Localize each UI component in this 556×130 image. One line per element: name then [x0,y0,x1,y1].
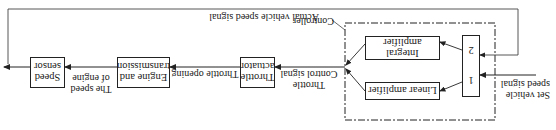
throttle-opening-label: Throttle opening [170,69,240,80]
set-speed-label-line1: Set vehicle [501,90,550,101]
selector-2-label: 2 [468,46,473,57]
engine-speed-line1: The speed [67,84,115,95]
control-signal-line2: Control signal [277,69,341,80]
engine-line2: transmission [117,62,170,73]
speed-sensor-line2: sensor [34,62,61,73]
linear-amplifier-block: Linear amplifier [365,82,440,100]
feedback-label: Actual vehicle speed signal [209,12,319,23]
selector-1-label: 1 [468,76,473,87]
set-speed-label-line2: speed signal [501,79,550,90]
speed-sensor-line1: Speed [35,73,61,84]
linear-to-sum [346,69,365,91]
engine-line1: Engine and [120,73,168,84]
engine-speed-line2: of engine [67,73,115,84]
integral-amplifier-block: Integral amplifier [365,36,440,60]
integral-amplifier-label: Integral amplifier [366,37,439,59]
control-signal-label: Throttle Control signal [277,69,341,90]
selector-switch: 1 2 [462,35,480,97]
engine-speed-label: The speed of engine [67,73,115,94]
control-signal-line1: Throttle [277,80,341,91]
block-diagram: Set vehicle speed signal 1 2 Linear ampl… [0,0,556,130]
set-speed-label: Set vehicle speed signal [501,79,550,100]
throttle-actuator-line2: actuator [241,62,275,73]
integral-to-sum [346,44,365,65]
throttle-actuator-line1: Throttle [241,73,275,84]
speed-sensor-block: Speed sensor [30,57,65,88]
throttle-actuator-block: Throttle actuator [240,57,275,88]
engine-transmission-block: Engine and transmission [117,57,170,88]
arrow-to-integral [440,42,462,50]
linear-amplifier-label: Linear amplifier [368,86,437,97]
arrow-to-linear [440,82,462,91]
